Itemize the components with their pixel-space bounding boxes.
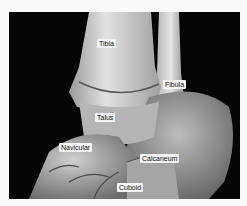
- ankle-ct-image: [9, 12, 240, 199]
- label-talus: Talus: [95, 113, 115, 122]
- label-tibia: Tibia: [97, 39, 116, 48]
- bone-rendering: [9, 12, 240, 199]
- label-cuboid: Cuboid: [117, 183, 143, 192]
- label-calcaneum: Calcaneum: [140, 154, 179, 163]
- label-navicular: Navicular: [59, 143, 92, 152]
- label-fibula: Fibula: [163, 80, 186, 89]
